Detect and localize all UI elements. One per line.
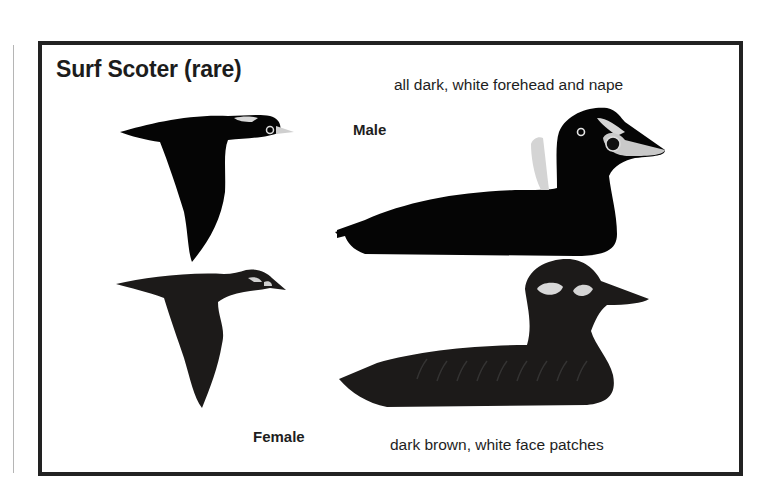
male-swimming-illustration bbox=[335, 104, 675, 262]
female-label: Female bbox=[253, 428, 305, 445]
species-title: Surf Scoter (rare) bbox=[56, 56, 242, 83]
female-flying-illustration bbox=[114, 268, 294, 413]
page-margin-rule bbox=[13, 45, 14, 473]
male-description: all dark, white forehead and nape bbox=[394, 76, 623, 94]
male-flying-illustration bbox=[118, 112, 298, 267]
female-description: dark brown, white face patches bbox=[390, 436, 604, 454]
female-swimming-illustration bbox=[337, 255, 657, 415]
